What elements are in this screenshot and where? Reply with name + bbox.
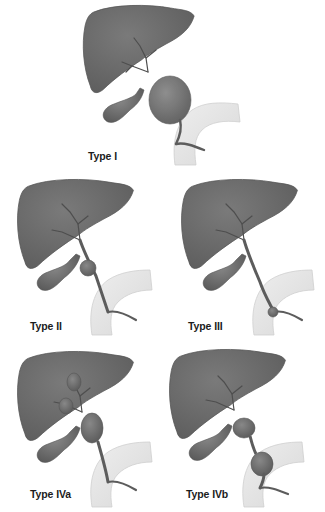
panel-type-ii: Type II xyxy=(0,172,165,340)
intrahepatic-cyst-lower xyxy=(59,398,73,414)
choledochal-cyst xyxy=(149,76,191,124)
duodenum xyxy=(253,270,314,335)
gallbladder xyxy=(103,88,144,122)
choledochal-diverticulum xyxy=(80,260,96,276)
extrahepatic-cyst xyxy=(81,413,103,443)
label-type-ii: Type II xyxy=(30,320,62,332)
panel-type-ivb: Type IVb xyxy=(160,342,325,512)
extrahepatic-cyst-lower xyxy=(251,452,273,476)
panel-type-iva: Type IVa xyxy=(0,342,165,512)
gallbladder xyxy=(203,254,246,290)
panel-type-i: Type I xyxy=(80,2,250,170)
intrahepatic-cyst-upper xyxy=(67,373,81,391)
type-ii-illustration xyxy=(0,172,165,340)
duodenum xyxy=(243,442,304,507)
type-i-illustration xyxy=(80,2,250,170)
panel-type-iii: Type III xyxy=(160,172,325,340)
choledochocele xyxy=(268,307,278,317)
type-iii-illustration xyxy=(160,172,325,340)
type-iva-illustration xyxy=(0,342,165,512)
label-type-iva: Type IVa xyxy=(30,488,71,500)
label-type-ivb: Type IVb xyxy=(186,488,228,500)
extrahepatic-cyst-upper xyxy=(233,418,255,438)
label-type-iii: Type III xyxy=(188,320,223,332)
type-ivb-illustration xyxy=(160,342,325,512)
duodenum xyxy=(91,270,152,335)
label-type-i: Type I xyxy=(88,150,117,162)
